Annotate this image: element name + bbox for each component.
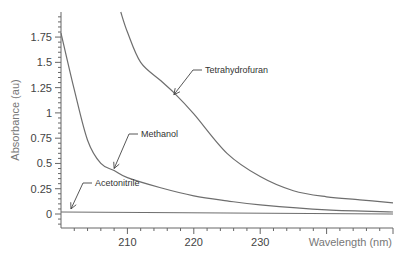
- annotation-leader: [114, 134, 138, 169]
- x-axis-title: Wavelength (nm): [309, 236, 392, 248]
- y-axis-title: Absorbance (au): [9, 79, 21, 160]
- y-tick-label: 0: [46, 208, 52, 220]
- y-tick-label: 1.25: [31, 82, 52, 94]
- y-tick-label: 1.75: [31, 31, 52, 43]
- y-tick-label: 1.5: [37, 56, 52, 68]
- annotation-label: Methanol: [141, 129, 178, 139]
- x-tick-label: 230: [251, 236, 269, 248]
- absorbance-chart: 00.250.50.7511.251.51.75210220230 Tetrah…: [0, 0, 404, 262]
- annotation-label: Acetonitrile: [95, 178, 140, 188]
- series-line-tetrahydrofuran: [121, 12, 393, 203]
- y-tick-label: 1: [46, 107, 52, 119]
- annotation-label: Tetrahydrofuran: [205, 65, 268, 75]
- annotations: TetrahydrofuranMethanolAcetonitrile: [71, 65, 268, 209]
- annotation-leader: [174, 70, 202, 95]
- series-line-acetonitrile: [61, 212, 393, 214]
- y-tick-label: 0.5: [37, 157, 52, 169]
- y-tick-label: 0.25: [31, 183, 52, 195]
- y-tick-label: 0.75: [31, 132, 52, 144]
- x-tick-label: 220: [185, 236, 203, 248]
- x-tick-label: 210: [118, 236, 136, 248]
- annotation-leader: [71, 183, 92, 209]
